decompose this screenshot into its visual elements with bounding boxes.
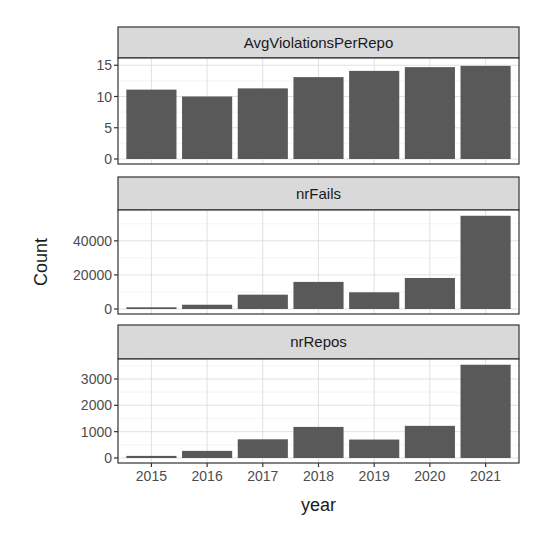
- faceted-bar-chart: AvgViolationsPerRepo051015nrFails0200004…: [0, 0, 553, 541]
- y-tick-label: 20000: [73, 267, 112, 283]
- strip-label: nrRepos: [290, 333, 347, 350]
- bar-2017: [238, 88, 288, 159]
- strip-label: nrFails: [296, 185, 341, 202]
- y-tick-label: 10: [96, 89, 112, 105]
- x-tick-label: 2015: [136, 468, 167, 484]
- bar-2020: [405, 67, 455, 159]
- y-tick-label: 15: [96, 57, 112, 73]
- bar-2016: [182, 305, 232, 309]
- x-tick-label: 2019: [359, 468, 390, 484]
- bar-2017: [238, 295, 288, 309]
- bar-2021: [461, 66, 511, 159]
- y-tick-label: 0: [104, 450, 112, 466]
- bar-2019: [349, 440, 399, 458]
- x-tick-label: 2017: [247, 468, 278, 484]
- bar-2018: [293, 282, 343, 309]
- bar-2019: [349, 292, 399, 309]
- bar-2015: [126, 90, 176, 159]
- bar-2015: [126, 456, 176, 458]
- bar-2021: [461, 365, 511, 458]
- y-tick-label: 3000: [81, 371, 112, 387]
- x-axis-title: year: [301, 495, 336, 515]
- bar-2017: [238, 439, 288, 458]
- y-tick-label: 1000: [81, 424, 112, 440]
- x-tick-label: 2018: [303, 468, 334, 484]
- bar-2018: [293, 427, 343, 458]
- x-tick-label: 2020: [414, 468, 445, 484]
- bar-2016: [182, 451, 232, 458]
- y-tick-label: 40000: [73, 233, 112, 249]
- y-tick-label: 2000: [81, 397, 112, 413]
- y-tick-label: 0: [104, 151, 112, 167]
- x-tick-label: 2016: [192, 468, 223, 484]
- y-tick-label: 0: [104, 301, 112, 317]
- x-tick-label: 2021: [470, 468, 501, 484]
- panel-nrFails: nrFails02000040000: [73, 177, 519, 317]
- bar-2018: [293, 77, 343, 159]
- bar-2021: [461, 216, 511, 309]
- y-axis-title: Count: [31, 238, 51, 286]
- strip-label: AvgViolationsPerRepo: [244, 34, 394, 51]
- y-tick-label: 5: [104, 120, 112, 136]
- bar-2020: [405, 278, 455, 309]
- bar-2015: [126, 307, 176, 309]
- bar-2019: [349, 71, 399, 159]
- bar-2016: [182, 97, 232, 160]
- panel-AvgViolationsPerRepo: AvgViolationsPerRepo051015: [96, 27, 519, 167]
- panel-nrRepos: nrRepos010002000300020152016201720182019…: [81, 325, 519, 484]
- bar-2020: [405, 426, 455, 458]
